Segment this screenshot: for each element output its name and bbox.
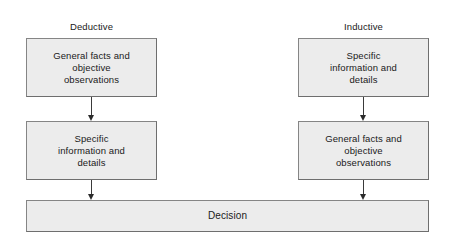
process-box-inductive-step-2: General facts and objective observations — [298, 121, 429, 180]
arrow-down-icon-deductive-2-to-decision — [87, 180, 96, 200]
column-heading-inductive-line1: Inductive — [298, 21, 429, 33]
process-box-deductive-step-1-label: General facts and objective observations — [47, 50, 136, 86]
arrow-down-icon-inductive-2-to-decision — [359, 180, 368, 200]
process-box-inductive-step-1: Specific information and details — [298, 38, 429, 97]
process-box-deductive-step-1: General facts and objective observations — [26, 38, 157, 97]
arrow-stem — [91, 97, 92, 115]
arrow-stem — [363, 97, 364, 115]
arrow-head — [360, 115, 366, 121]
outcome-box-decision-label: Decision — [202, 210, 253, 222]
arrow-down-icon-inductive-1-to-2 — [359, 97, 368, 121]
arrow-head — [88, 115, 94, 121]
process-box-inductive-step-1-label: Specific information and details — [324, 50, 403, 86]
arrow-stem — [363, 180, 364, 194]
process-box-deductive-step-2-label: Specific information and details — [52, 133, 131, 169]
outcome-box-decision: Decision — [26, 200, 429, 232]
process-box-inductive-step-2-label: General facts and objective observations — [319, 133, 408, 169]
decision-making-flowchart: Deductive Decision Making Inductive Deci… — [0, 0, 452, 245]
column-heading-deductive-line1: Deductive — [26, 21, 157, 33]
process-box-deductive-step-2: Specific information and details — [26, 121, 157, 180]
arrow-down-icon-deductive-1-to-2 — [87, 97, 96, 121]
arrow-stem — [91, 180, 92, 194]
